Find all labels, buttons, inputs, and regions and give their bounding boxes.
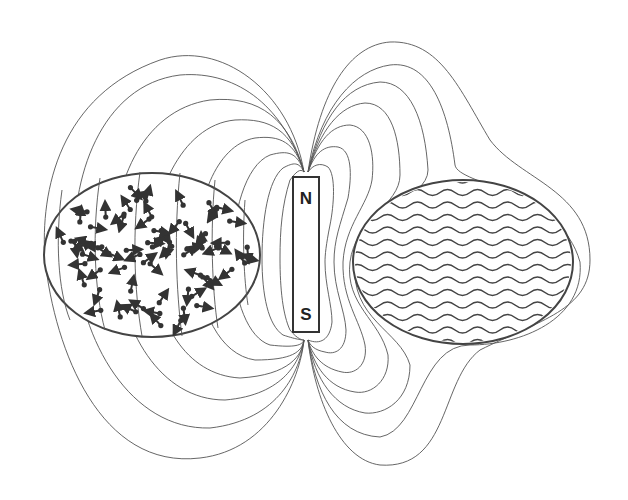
magnetic-field-diagram: N S: [0, 0, 628, 500]
bar-magnet: N S: [293, 177, 319, 332]
right-region-wavy-lines: [350, 177, 590, 346]
south-pole-label: S: [300, 305, 311, 324]
left-region-random-dipoles: [44, 172, 260, 337]
north-pole-label: N: [300, 189, 312, 208]
